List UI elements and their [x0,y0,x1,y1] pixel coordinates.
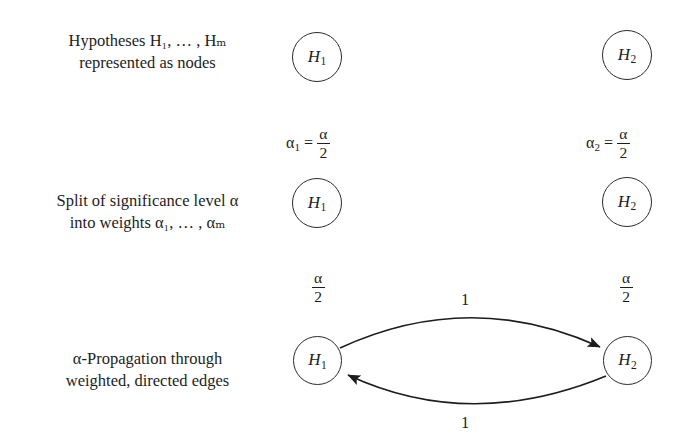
node-h1-row3-label: H1 [308,350,327,370]
node-h2-row3[interactable]: H2 [603,336,652,385]
edge-h1-to-h2[interactable] [340,318,600,348]
edge-h2-to-h1[interactable] [348,375,606,404]
node-h2-row3-label: H2 [618,350,637,370]
edge-weight-bottom: 1 [461,413,469,433]
node-h1-row3[interactable]: H1 [293,336,342,385]
diagram-canvas: Hypotheses H₁, … , Hₘ represented as nod… [0,0,687,440]
edge-weight-top: 1 [461,290,469,310]
edge-layer [0,0,687,440]
